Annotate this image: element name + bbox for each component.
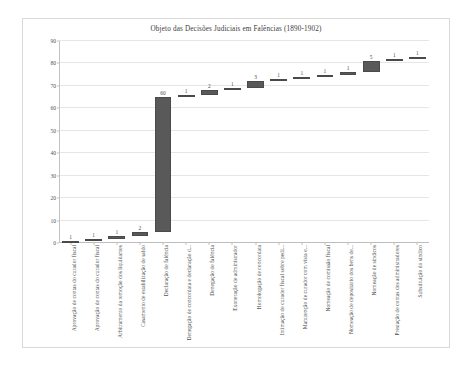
bar[interactable] <box>85 239 102 241</box>
y-axis-tick-label: 80 <box>50 60 56 66</box>
bar-value-label: 5 <box>370 54 373 60</box>
x-axis-label-slot: Substituição do síndico <box>406 245 429 357</box>
x-axis-category-label: Prestação de contas dos administradores <box>394 245 400 336</box>
x-axis-category-label: Declaração de falência <box>163 245 169 296</box>
bar-slot: 60 <box>152 41 175 243</box>
x-axis-label-slot: Aprovação de contas do curador fiscal <box>82 245 105 357</box>
x-axis-category-label: Denegação de concordata e declaração d..… <box>186 245 192 341</box>
y-axis-tick-label: 70 <box>50 83 56 89</box>
x-axis-category-labels: Aprovação de contas do curador fiscalApr… <box>59 245 429 357</box>
bar-slot: 1 <box>406 41 429 243</box>
x-axis-category-label: Manutenção de curador com vista e... <box>302 245 308 329</box>
x-axis-label-slot: Denegação de falência <box>198 245 221 357</box>
bar-slot: 1 <box>105 41 128 243</box>
bar[interactable] <box>340 72 357 74</box>
y-axis-tick-label: 90 <box>50 38 56 44</box>
bar-slot: 1 <box>313 41 336 243</box>
bar-slot: 1 <box>82 41 105 243</box>
x-axis-label-slot: Prestação de contas dos administradores <box>383 245 406 357</box>
x-axis-label-slot: Manutenção de curador com vista e... <box>290 245 313 357</box>
bar[interactable] <box>108 236 125 238</box>
bar[interactable] <box>155 97 172 232</box>
bar-value-label: 1 <box>324 68 327 74</box>
y-axis-tick-label: 10 <box>50 218 56 224</box>
x-axis-category-label: Exoneração de administrador <box>232 245 238 311</box>
x-axis-category-label: Denegação de falência <box>209 245 215 296</box>
bar-slot: 1 <box>221 41 244 243</box>
y-axis-tick-label: 60 <box>50 105 56 111</box>
bar[interactable] <box>132 232 149 236</box>
plot-area: 0102030405060708090 11126012131111511 <box>59 41 429 243</box>
bar[interactable] <box>386 59 403 61</box>
x-axis-category-label: Aprovação de contas do curador fiscal <box>71 245 77 331</box>
bar-slot: 1 <box>290 41 313 243</box>
bar-value-label: 1 <box>185 88 188 94</box>
x-axis-label-slot: Denegação de concordata e declaração d..… <box>175 245 198 357</box>
y-axis-tick-label: 20 <box>50 195 56 201</box>
bar-value-label: 1 <box>277 72 280 78</box>
x-axis-category-label: Nomeação de síndicos <box>371 245 377 295</box>
bar[interactable] <box>270 79 287 81</box>
bar-value-label: 1 <box>92 232 95 238</box>
x-axis-category-label: Arbitramento da remoção dos liquidantes <box>117 245 123 338</box>
bar-slot: 1 <box>59 41 82 243</box>
bar[interactable] <box>178 95 195 97</box>
bar-slot: 3 <box>244 41 267 243</box>
y-axis-tick-label: 50 <box>50 128 56 134</box>
chart-title: Objeto das Decisões Judiciais em Falênci… <box>23 25 449 33</box>
bar-value-label: 2 <box>208 83 211 89</box>
bar-slot: 5 <box>360 41 383 243</box>
x-axis-label-slot: Declaração de falência <box>152 245 175 357</box>
x-axis-label-slot: Intimação de curador fiscal sobre pedi..… <box>267 245 290 357</box>
bar[interactable] <box>317 75 334 77</box>
bar-value-label: 3 <box>254 74 257 80</box>
x-axis-label-slot: Nomeação de síndicos <box>360 245 383 357</box>
bar[interactable] <box>247 81 264 88</box>
bar-value-label: 1 <box>69 234 72 240</box>
y-axis-tick-label: 0 <box>53 240 56 246</box>
x-axis-label-slot: Exoneração de administrador <box>221 245 244 357</box>
bar-slot: 1 <box>267 41 290 243</box>
bar[interactable] <box>293 77 310 79</box>
x-axis-label-slot: Nomeação de comissão fiscal <box>313 245 336 357</box>
x-axis-label-slot: Casamento de estabilização de saldo <box>128 245 151 357</box>
x-axis-label-slot: Aprovação de contas do curador fiscal <box>59 245 82 357</box>
x-axis-category-label: Nomeação de depositário dos bens de... <box>348 245 354 334</box>
x-axis-label-slot: Nomeação de depositário dos bens de... <box>337 245 360 357</box>
bar-slot: 1 <box>383 41 406 243</box>
bar[interactable] <box>224 88 241 90</box>
bar[interactable] <box>363 61 380 72</box>
x-axis-category-label: Substituição do síndico <box>417 245 423 297</box>
y-axis-tick-label: 30 <box>50 173 56 179</box>
bar-value-label: 1 <box>300 70 303 76</box>
x-axis-category-label: Nomeação de comissão fiscal <box>325 245 331 312</box>
x-axis-category-label: Intimação de curador fiscal sobre pedi..… <box>279 245 285 335</box>
bar-value-label: 60 <box>160 90 165 96</box>
bar-value-label: 1 <box>393 52 396 58</box>
bar-slot: 1 <box>175 41 198 243</box>
bar-value-label: 2 <box>139 225 142 231</box>
y-axis-tick-label: 40 <box>50 150 56 156</box>
bar-slot: 2 <box>128 41 151 243</box>
x-axis-category-label: Casamento de estabilização de saldo <box>140 245 146 327</box>
bar[interactable] <box>201 90 218 94</box>
bar-value-label: 1 <box>416 50 419 56</box>
bar-value-label: 1 <box>115 229 118 235</box>
bar-slot: 2 <box>198 41 221 243</box>
x-axis-category-label: Homologação de concordata <box>256 245 262 309</box>
bar-value-label: 1 <box>231 81 234 87</box>
bar[interactable] <box>409 57 426 59</box>
x-axis-label-slot: Arbitramento da remoção dos liquidantes <box>105 245 128 357</box>
x-axis-category-label: Aprovação de contas do curador fiscal <box>94 245 100 331</box>
bar-value-label: 1 <box>347 65 350 71</box>
chart-container: Objeto das Decisões Judiciais em Falênci… <box>22 18 450 348</box>
x-axis-label-slot: Homologação de concordata <box>244 245 267 357</box>
bar-slot: 1 <box>337 41 360 243</box>
